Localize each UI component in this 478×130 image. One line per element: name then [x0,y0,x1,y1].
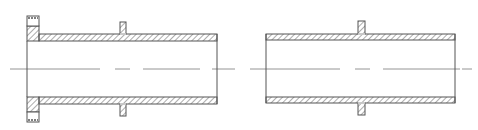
left-collar-top [120,22,126,34]
right-collar-bottom [358,103,365,115]
left-top-wall [39,34,217,41]
right-top-wall [266,34,455,40]
flange-bottom-hatched [27,97,39,112]
left-bottom-wall [39,97,217,104]
right-pipe-section [266,21,455,115]
flange-top-hatched [27,26,39,41]
left-collar-bottom [120,104,126,116]
right-bottom-wall [266,97,455,103]
right-collar-top [358,21,365,34]
technical-drawing [0,0,478,130]
